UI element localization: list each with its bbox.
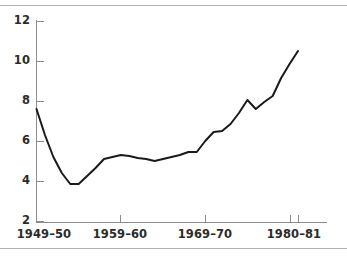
x-tick-label-1949-50: 1949–50	[4, 228, 84, 240]
y-tick-label-12: 12	[8, 15, 30, 26]
x-tick-marks	[121, 215, 299, 223]
x-tick-label-1969-70: 1969–70	[165, 228, 245, 240]
y-tick-label-10: 10	[8, 55, 30, 66]
x-tick-label-1980-81: 1980–81	[254, 228, 334, 240]
chart-figure: 12 10 8 6 4 2 1949–50 1959–60 1969–70 19…	[0, 0, 347, 258]
x-tick-label-1959-60: 1959–60	[80, 228, 160, 240]
line-chart-plot	[0, 0, 347, 258]
y-tick-label-4: 4	[8, 175, 30, 186]
axes-group	[36, 20, 327, 223]
y-tick-label-6: 6	[8, 135, 30, 146]
data-series-line	[37, 51, 299, 184]
y-tick-label-2: 2	[8, 215, 30, 226]
y-tick-label-8: 8	[8, 95, 30, 106]
